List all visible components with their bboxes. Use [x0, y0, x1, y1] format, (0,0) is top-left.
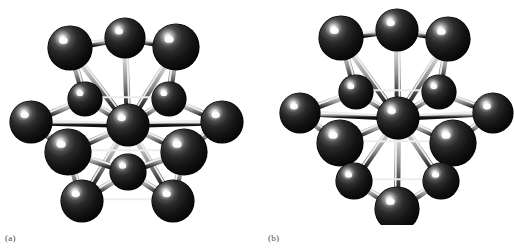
cluster-svg-a: [0, 0, 257, 225]
shell-atom-sphere: [200, 100, 243, 143]
shell-atom-sphere: [47, 25, 92, 70]
specular-highlight: [437, 28, 446, 35]
central-atom-sphere: [376, 96, 419, 139]
cluster-diagram-b: [257, 0, 514, 225]
atom-layer-a: [9, 17, 243, 222]
specular-highlight: [21, 112, 29, 118]
specular-highlight: [388, 108, 396, 114]
shell-atom-sphere: [279, 92, 320, 133]
shell-atom-sphere: [152, 23, 199, 70]
shell-atom-sphere: [316, 119, 363, 166]
specular-highlight: [348, 84, 355, 89]
panel-label-b: (b): [268, 233, 279, 243]
shell-atom-sphere: [421, 74, 456, 109]
specular-highlight: [173, 141, 182, 148]
shell-atom-sphere: [335, 162, 372, 199]
shell-atom-sphere: [375, 8, 418, 51]
bond: [350, 141, 442, 143]
specular-highlight: [432, 172, 439, 177]
specular-highlight: [57, 141, 66, 148]
figure-panel-a: (a): [0, 0, 257, 252]
shell-atom-sphere: [151, 81, 186, 116]
specular-highlight: [483, 103, 491, 109]
specular-highlight: [59, 37, 68, 44]
figure-canvas: (a): [0, 0, 514, 252]
shell-atom-sphere: [318, 15, 363, 60]
specular-highlight: [77, 91, 84, 96]
specular-highlight: [72, 191, 80, 197]
bond: [78, 150, 173, 152]
specular-highlight: [290, 103, 298, 109]
specular-highlight: [330, 27, 339, 34]
specular-highlight: [163, 191, 171, 197]
atom-layer-b: [279, 8, 513, 225]
specular-highlight: [442, 132, 451, 139]
central-atom-sphere: [106, 103, 149, 146]
shell-atom-sphere: [151, 179, 194, 222]
specular-highlight: [165, 36, 174, 43]
bond: [362, 179, 433, 181]
shell-atom-sphere: [67, 81, 102, 116]
cluster-diagram-a: [0, 0, 257, 225]
specular-highlight: [431, 84, 438, 89]
shell-atom-sphere: [109, 153, 146, 190]
specular-highlight: [115, 28, 123, 34]
specular-highlight: [386, 198, 395, 205]
bond: [364, 90, 432, 92]
shell-atom-sphere: [425, 16, 470, 61]
bond: [93, 97, 162, 99]
shell-atom-sphere: [9, 100, 52, 143]
panel-label-a: (a): [5, 233, 16, 243]
specular-highlight: [387, 20, 395, 26]
shell-atom-sphere: [338, 74, 373, 109]
shell-atom-sphere: [429, 119, 476, 166]
shell-atom-sphere: [374, 186, 419, 225]
specular-highlight: [161, 91, 168, 96]
shell-atom-sphere: [472, 92, 513, 133]
specular-highlight: [118, 115, 126, 121]
specular-highlight: [212, 112, 220, 118]
specular-highlight: [345, 172, 352, 177]
shell-atom-sphere: [160, 128, 207, 175]
figure-panel-b: (b): [257, 0, 514, 252]
specular-highlight: [329, 132, 338, 139]
specular-highlight: [119, 163, 126, 168]
shell-atom-sphere: [422, 162, 459, 199]
shell-atom-sphere: [104, 17, 145, 58]
cluster-svg-b: [257, 0, 514, 225]
shell-atom-sphere: [60, 179, 103, 222]
shell-atom-sphere: [44, 128, 91, 175]
